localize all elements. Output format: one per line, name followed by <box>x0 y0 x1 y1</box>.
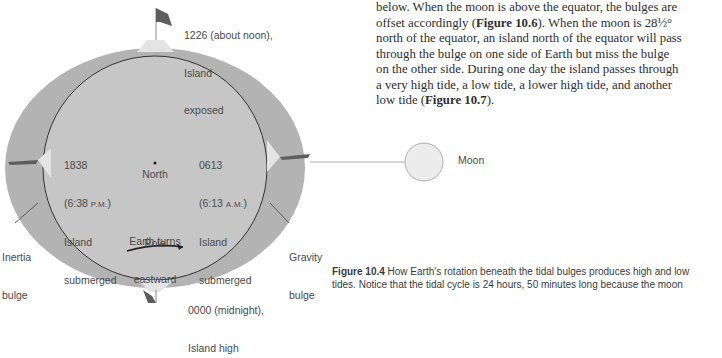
island-top-icon <box>137 8 174 52</box>
label-north: North <box>137 168 173 181</box>
label-inertia-line1: Inertia <box>2 251 31 264</box>
figure-reference-10-6: Figure 10.6 <box>476 16 538 30</box>
label-midnight: 0000 (midnight), Island high <box>188 279 264 358</box>
label-earth-turns: Earth turns eastward <box>122 210 188 298</box>
label-0613-line3: Island <box>199 236 252 249</box>
figure-caption: Figure 10.4 How Earth's rotation beneath… <box>332 265 722 291</box>
caption-text: How Earth's rotation beneath the tidal b… <box>385 266 689 277</box>
label-noon-line2: Island <box>184 67 273 80</box>
label-inertia-bulge: Inertia bulge <box>2 226 31 314</box>
label-midnight-line1: 0000 (midnight), <box>188 304 264 317</box>
body-line-2: offset accordingly (Figure 10.6). When t… <box>376 16 720 32</box>
figure-reference-10-7: Figure 10.7 <box>425 93 487 107</box>
label-1838-time: 1838 <box>64 159 117 172</box>
label-midnight-line2: Island high <box>188 342 264 355</box>
clock-suffix: A.M. <box>226 200 244 209</box>
body-text-span: ). <box>487 93 494 107</box>
body-line-6: a very high tide, a low tide, a lower hi… <box>376 78 720 94</box>
label-0613-clock: (6:13 A.M.) <box>199 197 252 212</box>
label-1838: 1838 (6:38 P.M.) Island submerged <box>64 134 117 299</box>
label-moon: Moon <box>458 154 484 166</box>
label-noon-line1: 1226 (about noon), <box>184 29 273 42</box>
label-1838-clock: (6:38 P.M.) <box>64 197 117 212</box>
clock-time: (6:38 <box>64 197 91 209</box>
label-noon: 1226 (about noon), Island exposed <box>184 4 273 129</box>
label-0613-time: 0613 <box>199 159 252 172</box>
label-1838-line4: submerged <box>64 274 117 287</box>
label-gravity-bulge: Gravity bulge <box>289 226 322 314</box>
clock-time: (6:13 <box>199 197 226 209</box>
clock-close: ) <box>244 197 248 209</box>
caption-line-1: Figure 10.4 How Earth's rotation beneath… <box>332 265 722 278</box>
body-text-span: offset accordingly ( <box>376 16 476 30</box>
caption-figure-label: Figure 10.4 <box>332 266 385 277</box>
label-gravity-line1: Gravity <box>289 251 322 264</box>
body-paragraph: below. When the moon is above the equato… <box>376 0 720 109</box>
caption-line-2: tides. Notice that the tidal cycle is 24… <box>332 278 722 291</box>
label-gravity-line2: bulge <box>289 289 322 302</box>
body-line-3: north of the equator, an island north of… <box>376 31 720 47</box>
label-earth-turns-line2: eastward <box>122 273 188 286</box>
body-text-span: low tide ( <box>376 93 425 107</box>
clock-close: ) <box>107 197 111 209</box>
body-text-span: ). When the moon is 28½° <box>538 16 673 30</box>
label-0613: 0613 (6:13 A.M.) Island submerged <box>199 134 252 299</box>
label-noon-line3: exposed <box>184 104 273 117</box>
moon-circle <box>405 143 443 181</box>
label-1838-line3: Island <box>64 236 117 249</box>
label-earth-turns-line1: Earth turns <box>122 235 188 248</box>
body-line-1: below. When the moon is above the equato… <box>376 0 720 16</box>
body-line-7: low tide (Figure 10.7). <box>376 93 720 109</box>
body-line-4: through the bulge on one side of Earth b… <box>376 47 720 63</box>
clock-suffix: P.M. <box>91 200 108 209</box>
body-line-5: on the other side. During one day the is… <box>376 62 720 78</box>
label-inertia-line2: bulge <box>2 289 31 302</box>
